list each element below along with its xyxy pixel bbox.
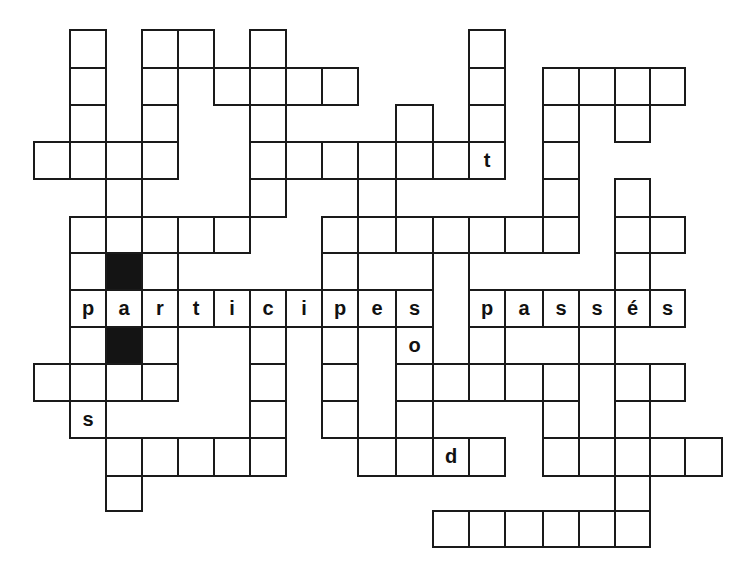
empty-cell[interactable] bbox=[69, 104, 107, 143]
empty-cell[interactable] bbox=[321, 400, 359, 439]
empty-cell[interactable] bbox=[69, 29, 107, 69]
empty-cell[interactable] bbox=[614, 252, 651, 291]
filled-cell[interactable]: a bbox=[105, 289, 143, 328]
empty-cell[interactable] bbox=[141, 326, 179, 365]
empty-cell[interactable] bbox=[649, 363, 686, 402]
filled-cell[interactable]: s bbox=[578, 289, 616, 328]
empty-cell[interactable] bbox=[468, 437, 506, 477]
empty-cell[interactable] bbox=[69, 252, 107, 291]
empty-cell[interactable] bbox=[468, 326, 506, 365]
empty-cell[interactable] bbox=[578, 326, 616, 365]
empty-cell[interactable] bbox=[177, 216, 215, 254]
empty-cell[interactable] bbox=[249, 326, 287, 365]
empty-cell[interactable] bbox=[357, 252, 434, 291]
empty-cell[interactable] bbox=[395, 141, 434, 180]
filled-cell[interactable]: a bbox=[504, 289, 544, 328]
empty-cell[interactable] bbox=[249, 363, 287, 402]
empty-cell[interactable] bbox=[177, 437, 215, 477]
empty-cell[interactable] bbox=[357, 216, 397, 254]
empty-cell[interactable] bbox=[69, 363, 107, 402]
empty-cell[interactable] bbox=[395, 400, 434, 439]
empty-cell[interactable] bbox=[249, 437, 287, 477]
empty-cell[interactable] bbox=[321, 363, 359, 402]
empty-cell[interactable] bbox=[578, 510, 616, 548]
empty-cell[interactable] bbox=[542, 104, 580, 143]
empty-cell[interactable] bbox=[578, 67, 616, 106]
filled-cell[interactable]: t bbox=[468, 141, 506, 180]
filled-cell[interactable]: r bbox=[141, 289, 179, 328]
filled-cell[interactable]: d bbox=[432, 437, 470, 477]
empty-cell[interactable] bbox=[542, 400, 580, 439]
empty-cell[interactable] bbox=[321, 216, 359, 254]
filled-cell[interactable]: é bbox=[614, 289, 651, 328]
filled-cell[interactable]: s bbox=[649, 289, 686, 328]
empty-cell[interactable] bbox=[395, 363, 434, 402]
empty-cell[interactable] bbox=[33, 363, 71, 402]
empty-cell[interactable] bbox=[468, 216, 506, 254]
empty-cell[interactable] bbox=[357, 141, 397, 180]
empty-cell[interactable] bbox=[141, 104, 179, 143]
empty-cell[interactable] bbox=[614, 510, 651, 548]
empty-cell[interactable] bbox=[213, 437, 251, 477]
empty-cell[interactable] bbox=[321, 67, 359, 106]
empty-cell[interactable] bbox=[684, 437, 723, 477]
filled-cell[interactable]: i bbox=[285, 289, 323, 328]
empty-cell[interactable] bbox=[249, 400, 287, 439]
empty-cell[interactable] bbox=[542, 510, 580, 548]
empty-cell[interactable] bbox=[614, 437, 651, 477]
empty-cell[interactable] bbox=[504, 216, 544, 254]
empty-cell[interactable] bbox=[69, 216, 107, 254]
filled-cell[interactable]: p bbox=[468, 289, 506, 328]
empty-cell[interactable] bbox=[105, 216, 143, 254]
empty-cell[interactable] bbox=[395, 104, 434, 143]
empty-cell[interactable] bbox=[285, 67, 323, 106]
empty-cell[interactable] bbox=[468, 104, 506, 143]
empty-cell[interactable] bbox=[542, 363, 580, 402]
empty-cell[interactable] bbox=[542, 67, 580, 106]
empty-cell[interactable] bbox=[105, 363, 143, 402]
empty-cell[interactable] bbox=[249, 178, 287, 218]
empty-cell[interactable] bbox=[321, 252, 359, 291]
empty-cell[interactable] bbox=[321, 326, 359, 365]
empty-cell[interactable] bbox=[33, 141, 71, 180]
empty-cell[interactable] bbox=[105, 437, 143, 477]
empty-cell[interactable] bbox=[141, 363, 179, 402]
empty-cell[interactable] bbox=[141, 216, 179, 254]
empty-cell[interactable] bbox=[614, 178, 651, 218]
empty-cell[interactable] bbox=[649, 67, 686, 106]
empty-cell[interactable] bbox=[542, 178, 580, 218]
empty-cell[interactable] bbox=[141, 141, 179, 180]
filled-cell[interactable]: s bbox=[395, 289, 434, 328]
empty-cell[interactable] bbox=[249, 104, 287, 143]
empty-cell[interactable] bbox=[432, 363, 470, 402]
empty-cell[interactable] bbox=[69, 326, 107, 365]
empty-cell[interactable] bbox=[141, 67, 179, 106]
empty-cell[interactable] bbox=[578, 437, 616, 477]
empty-cell[interactable] bbox=[395, 216, 434, 254]
empty-cell[interactable] bbox=[468, 29, 506, 69]
filled-cell[interactable]: c bbox=[249, 289, 287, 328]
empty-cell[interactable] bbox=[105, 475, 143, 512]
empty-cell[interactable] bbox=[614, 216, 651, 254]
empty-cell[interactable] bbox=[542, 141, 580, 180]
empty-cell[interactable] bbox=[542, 437, 580, 477]
empty-cell[interactable] bbox=[249, 29, 287, 69]
empty-cell[interactable] bbox=[285, 141, 323, 180]
empty-cell[interactable] bbox=[614, 363, 651, 402]
empty-cell[interactable] bbox=[504, 326, 580, 365]
empty-cell[interactable] bbox=[213, 67, 251, 106]
empty-cell[interactable] bbox=[249, 67, 287, 106]
empty-cell[interactable] bbox=[69, 67, 107, 106]
empty-cell[interactable] bbox=[504, 363, 544, 402]
empty-cell[interactable] bbox=[468, 363, 506, 402]
empty-cell[interactable] bbox=[432, 141, 470, 180]
empty-cell[interactable] bbox=[213, 216, 251, 254]
empty-cell[interactable] bbox=[614, 400, 651, 439]
empty-cell[interactable] bbox=[432, 510, 470, 548]
empty-cell[interactable] bbox=[578, 363, 616, 439]
empty-cell[interactable] bbox=[357, 326, 397, 439]
empty-cell[interactable] bbox=[432, 252, 470, 365]
filled-cell[interactable]: i bbox=[213, 289, 251, 328]
empty-cell[interactable] bbox=[357, 178, 397, 218]
empty-cell[interactable] bbox=[432, 216, 470, 254]
